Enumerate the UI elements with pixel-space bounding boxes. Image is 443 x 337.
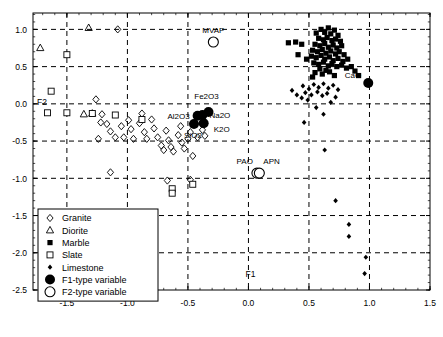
- x-axis-title: F1: [245, 269, 255, 279]
- data-point: [339, 43, 344, 48]
- legend-label: F2-type variable: [62, 287, 127, 297]
- data-point: [349, 64, 354, 69]
- legend-marker-filled-square: [47, 240, 52, 245]
- x-axis-tick-label: -0.5: [181, 298, 196, 308]
- data-point: [344, 66, 349, 71]
- data-point: [363, 78, 373, 88]
- data-point: [314, 31, 319, 36]
- data-point: [333, 36, 338, 41]
- data-point: [208, 37, 218, 47]
- data-point: [139, 116, 145, 122]
- data-point: [322, 30, 327, 35]
- data-point: [314, 55, 319, 60]
- data-point: [311, 60, 316, 65]
- point-label-cao: CaO: [345, 71, 361, 80]
- legend-label: Marble: [62, 238, 90, 248]
- y-axis-tick-label: -2.0: [12, 248, 27, 258]
- data-point: [112, 112, 118, 118]
- y-axis-tick-label: -1.5: [12, 211, 27, 221]
- data-point: [328, 48, 333, 53]
- data-point: [312, 70, 317, 75]
- y-axis-tick-label: -0.5: [12, 136, 27, 146]
- data-point: [64, 110, 70, 116]
- data-point: [304, 57, 309, 62]
- data-point: [325, 35, 330, 40]
- point-label-sio2: SiO2: [184, 131, 202, 140]
- y-axis-tick-label: 0.0: [15, 99, 27, 109]
- data-point: [254, 168, 264, 178]
- data-point: [299, 42, 304, 47]
- point-label-mvap: MVAP: [202, 26, 224, 35]
- y-axis-tick-label: -2.5: [12, 285, 27, 295]
- point-label-k2o: K2O: [214, 125, 230, 134]
- legend: GraniteDioriteMarbleSlateLimestoneF1-typ…: [38, 209, 158, 301]
- data-point: [345, 57, 350, 62]
- legend-label: F1-type variable: [62, 275, 127, 285]
- legend-marker-large-open-circle: [45, 287, 55, 297]
- data-point: [327, 69, 332, 74]
- legend-label: Slate: [62, 250, 83, 260]
- data-point: [320, 71, 325, 76]
- x-axis-tick-label: 1.0: [364, 298, 376, 308]
- data-point: [321, 60, 326, 65]
- data-point: [326, 25, 331, 30]
- data-point: [332, 28, 337, 33]
- y-axis-tick-label: 1.0: [15, 25, 27, 35]
- data-point: [89, 111, 95, 117]
- x-axis-tick-label: 0.0: [243, 298, 255, 308]
- data-point: [48, 88, 54, 94]
- data-point: [338, 39, 343, 44]
- point-label-pao: PAO: [237, 157, 253, 166]
- y-axis-title: F2: [37, 97, 47, 107]
- y-axis-tick-label: 0.5: [15, 62, 27, 72]
- data-point: [293, 39, 298, 44]
- data-point: [335, 56, 340, 61]
- legend-label: Limestone: [62, 263, 104, 273]
- data-point: [339, 63, 344, 68]
- data-point: [334, 64, 339, 69]
- chart-root: -1.5-1.0-0.50.00.51.01.51.00.50.0-0.5-1.…: [0, 0, 443, 337]
- legend-marker-open-square: [47, 252, 53, 258]
- data-point: [45, 110, 51, 116]
- data-point: [317, 66, 322, 71]
- legend-label: Granite: [62, 213, 92, 223]
- data-point: [309, 54, 314, 59]
- data-point: [312, 42, 317, 47]
- legend-marker-large-filled-circle: [45, 275, 55, 285]
- data-point: [329, 61, 334, 66]
- data-point: [316, 62, 321, 67]
- point-label-al2o3: Al2O3: [167, 112, 190, 121]
- legend-label: Diorite: [62, 226, 88, 236]
- data-point: [286, 40, 291, 45]
- data-point: [169, 190, 175, 196]
- data-point: [189, 119, 199, 129]
- data-point: [199, 118, 209, 128]
- data-point: [341, 52, 346, 57]
- y-axis-tick-label: -1.0: [12, 174, 27, 184]
- data-point: [332, 73, 337, 78]
- data-point: [295, 52, 300, 57]
- data-point: [316, 36, 321, 41]
- data-point: [64, 52, 70, 58]
- point-label-na2o: Na2O: [209, 111, 230, 120]
- x-axis-tick-label: 0.5: [303, 298, 315, 308]
- point-label-fe2o3: Fe2O3: [194, 92, 219, 101]
- scatter-plot: -1.5-1.0-0.50.00.51.01.51.00.50.0-0.5-1.…: [0, 0, 443, 337]
- data-point: [310, 48, 315, 53]
- data-point: [310, 74, 315, 79]
- point-label-apn: APN: [263, 157, 280, 166]
- data-point: [337, 49, 342, 54]
- x-axis-tick-label: 1.5: [424, 298, 436, 308]
- data-point: [190, 181, 196, 187]
